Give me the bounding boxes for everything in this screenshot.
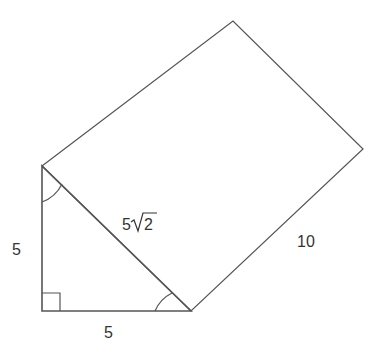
angle-arc-bottom-right — [155, 293, 172, 311]
label-rectangle-side: 10 — [297, 233, 315, 250]
label-hypotenuse-radicand: 2 — [144, 216, 153, 233]
label-vertical-leg: 5 — [12, 241, 21, 258]
right-triangle-face — [42, 166, 191, 311]
prism-net-diagram: 5 5 5 2 10 — [0, 0, 380, 356]
angle-arc-top — [42, 184, 62, 202]
label-hypotenuse-coef: 5 — [122, 216, 131, 233]
rectangle-face — [42, 21, 363, 311]
right-angle-marker — [42, 293, 60, 311]
label-horizontal-leg: 5 — [104, 324, 113, 341]
label-hypotenuse: 5 2 — [122, 213, 157, 233]
